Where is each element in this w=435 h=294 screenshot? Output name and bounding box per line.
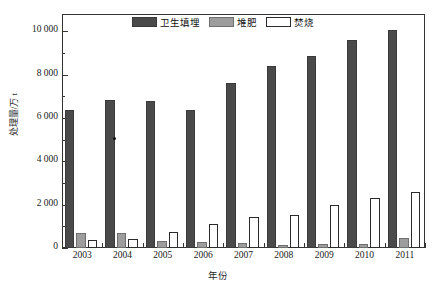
y-tick-label: 6 000 (10, 111, 58, 121)
legend-swatch-landfill (132, 17, 157, 27)
bar-2009-0 (307, 56, 317, 248)
x-axis-title: 年份 (0, 268, 435, 282)
x-tick (425, 243, 426, 248)
bar-2003-2 (88, 240, 98, 248)
bar-2008-1 (278, 245, 288, 248)
bar-2011-0 (388, 30, 398, 248)
legend-swatch-compost (209, 17, 234, 27)
legend-item-1: 堆肥 (209, 15, 257, 29)
bar-2011-1 (399, 238, 409, 248)
x-tick (385, 243, 386, 248)
y-tick-major (62, 31, 68, 32)
scan-artifact-speck (113, 137, 116, 140)
bar-2004-0 (105, 100, 115, 248)
x-tick (62, 243, 63, 248)
bar-2007-2 (249, 217, 259, 248)
y-tick-label: 0 (10, 241, 58, 251)
y-tick-label: 8 000 (10, 68, 58, 78)
y-tick-label: 4 000 (10, 154, 58, 164)
x-tick (344, 243, 345, 248)
bar-2005-1 (157, 241, 167, 248)
y-tick-major (62, 75, 68, 76)
bar-2006-0 (186, 110, 196, 248)
y-tick-label: 10 000 (10, 24, 58, 34)
bar-2008-2 (290, 215, 300, 248)
bar-2005-2 (169, 232, 179, 248)
legend-item-0: 卫生填埋 (132, 15, 200, 29)
legend-label-compost: 堆肥 (237, 15, 257, 29)
bar-2006-1 (197, 242, 207, 248)
legend-label-incineration: 焚烧 (294, 15, 314, 29)
x-tick (223, 243, 224, 248)
bar-2005-0 (146, 101, 156, 248)
bar-2008-0 (267, 66, 277, 248)
y-tick-minor (62, 53, 65, 54)
x-tick (102, 243, 103, 248)
bar-2003-0 (65, 110, 75, 248)
bar-2007-0 (226, 83, 236, 248)
legend-label-landfill: 卫生填埋 (160, 15, 200, 29)
legend-swatch-incineration (266, 17, 291, 27)
y-tick-minor (62, 96, 65, 97)
bar-2011-2 (411, 192, 421, 248)
chart-figure: 处理量/万 t 02 0004 0006 0008 00010 00020032… (0, 0, 435, 294)
y-tick-major (62, 248, 68, 249)
chart-legend: 卫生填埋 堆肥 焚烧 (132, 15, 314, 29)
bar-2006-2 (209, 224, 219, 248)
x-tick (183, 243, 184, 248)
x-tick-label: 2011 (377, 250, 433, 260)
legend-item-2: 焚烧 (266, 15, 314, 29)
bar-2010-2 (370, 198, 380, 248)
bar-2010-1 (359, 244, 369, 248)
bar-2009-1 (318, 244, 328, 248)
bar-2004-2 (128, 239, 138, 248)
bar-2010-0 (347, 40, 357, 248)
y-tick-label: 2 000 (10, 198, 58, 208)
x-tick (304, 243, 305, 248)
bar-2007-1 (238, 243, 248, 248)
bar-2009-2 (330, 205, 340, 248)
bar-2004-1 (117, 233, 127, 248)
x-tick (264, 243, 265, 248)
bar-2003-1 (76, 233, 86, 248)
x-tick (143, 243, 144, 248)
